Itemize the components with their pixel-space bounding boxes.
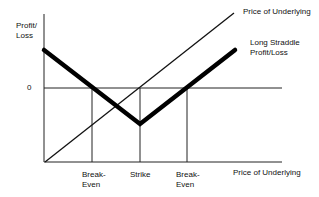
y-axis-label-2: Loss	[16, 31, 33, 41]
break-even-left-label-2: Even	[82, 180, 100, 190]
zero-tick-label: 0	[27, 83, 31, 93]
y-axis-label: Profit/	[16, 21, 37, 31]
straddle-label: Long Straddle	[250, 38, 300, 48]
break-even-right-label-2: Even	[176, 180, 194, 190]
break-even-right-label: Break-	[176, 170, 200, 180]
price-line-label: Price of Underlying	[243, 7, 311, 17]
strike-label: Strike	[130, 170, 150, 180]
straddle-label-2: Profit/Loss	[250, 48, 288, 58]
break-even-left-label: Break-	[82, 170, 106, 180]
x-axis-label: Price of Underlying	[233, 168, 301, 178]
